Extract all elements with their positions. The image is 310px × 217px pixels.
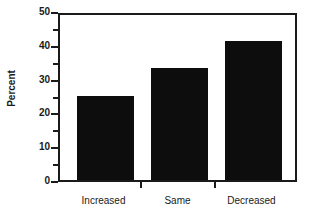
y-tick-label-0: 0 [20, 175, 50, 186]
y-minor-tick-15 [53, 130, 58, 132]
y-tick-label-10: 10 [20, 141, 50, 152]
x-tick-label-increased: Increased [82, 195, 126, 206]
y-tick-40 [51, 46, 58, 48]
x-tick-2 [214, 182, 216, 188]
y-minor-tick-45 [53, 29, 58, 31]
x-tick-1 [140, 182, 142, 188]
y-minor-tick-5 [53, 164, 58, 166]
x-tick-label-same: Same [164, 195, 190, 206]
plot-inner [60, 15, 295, 180]
y-tick-10 [51, 147, 58, 149]
bar-same [151, 68, 208, 180]
y-tick-label-20: 20 [20, 107, 50, 118]
y-tick-label-50: 50 [20, 6, 50, 17]
x-tick-label-decreased: Decreased [227, 195, 275, 206]
bar-chart: Percent 01020304050IncreasedSameDecrease… [0, 0, 310, 217]
plot-area [58, 13, 297, 182]
y-tick-50 [51, 12, 58, 14]
bar-increased [77, 96, 134, 181]
y-tick-30 [51, 80, 58, 82]
bar-decreased [225, 41, 282, 180]
y-minor-tick-35 [53, 63, 58, 65]
y-tick-label-30: 30 [20, 74, 50, 85]
y-tick-0 [51, 181, 58, 183]
y-tick-label-40: 40 [20, 40, 50, 51]
y-minor-tick-25 [53, 97, 58, 99]
y-tick-20 [51, 113, 58, 115]
y-axis-title: Percent [6, 54, 17, 124]
